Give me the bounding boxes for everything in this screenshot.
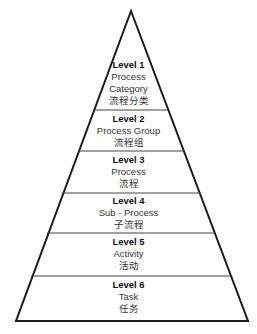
level-6-label: Level 6 Task 任务	[0, 279, 257, 315]
level-2-title: Level 2	[0, 113, 257, 125]
level-1-english-2: Category	[0, 83, 257, 95]
level-4-label: Level 4 Sub - Process 子流程	[0, 195, 257, 231]
level-2-chinese: 流程组	[0, 137, 257, 149]
level-4-chinese: 子流程	[0, 219, 257, 231]
level-1-title: Level 1	[0, 59, 257, 71]
level-3-chinese: 流程	[0, 178, 257, 190]
level-1-label: Level 1 Process Category 流程分类	[0, 59, 257, 107]
level-2-english: Process Group	[0, 125, 257, 137]
level-5-label: Level 5 Activity 活动	[0, 236, 257, 272]
level-6-title: Level 6	[0, 279, 257, 291]
level-5-title: Level 5	[0, 236, 257, 248]
level-1-english: Process	[0, 71, 257, 83]
level-6-english: Task	[0, 291, 257, 303]
level-1-chinese: 流程分类	[0, 95, 257, 107]
level-4-title: Level 4	[0, 195, 257, 207]
level-3-english: Process	[0, 166, 257, 178]
level-3-title: Level 3	[0, 154, 257, 166]
level-6-chinese: 任务	[0, 303, 257, 315]
level-5-chinese: 活动	[0, 260, 257, 272]
level-5-english: Activity	[0, 248, 257, 260]
level-3-label: Level 3 Process 流程	[0, 154, 257, 190]
level-4-english: Sub - Process	[0, 207, 257, 219]
level-2-label: Level 2 Process Group 流程组	[0, 113, 257, 149]
